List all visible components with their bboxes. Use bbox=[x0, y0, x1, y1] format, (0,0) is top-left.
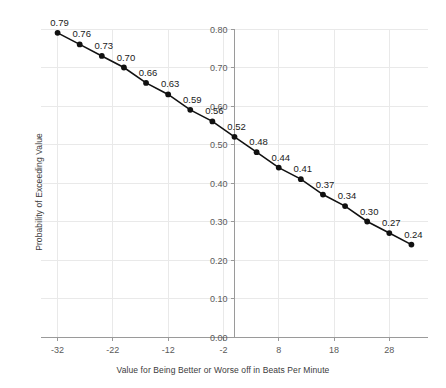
data-point-marker bbox=[77, 42, 83, 48]
data-point-label: 0.41 bbox=[294, 163, 313, 174]
x-axis-title: Value for Being Better or Worse off in B… bbox=[0, 365, 446, 375]
data-point-marker bbox=[276, 165, 282, 171]
data-point-marker bbox=[187, 107, 193, 113]
x-tick-label: -22 bbox=[106, 345, 119, 355]
y-tick-label: 0.10 bbox=[210, 294, 228, 304]
data-point-label: 0.30 bbox=[360, 206, 379, 217]
line-chart-plot: -32-22-12-2818280.000.100.200.300.400.50… bbox=[0, 0, 446, 388]
y-tick-label: 0.70 bbox=[210, 63, 228, 73]
data-point-marker bbox=[254, 149, 260, 155]
data-point-marker bbox=[232, 134, 238, 140]
data-point-marker bbox=[121, 65, 127, 71]
data-point-marker bbox=[409, 242, 415, 248]
y-tick-label: 0.50 bbox=[210, 140, 228, 150]
x-tick-label: -32 bbox=[51, 345, 64, 355]
data-point-marker bbox=[99, 53, 105, 59]
y-tick-label: 0.80 bbox=[210, 25, 228, 35]
data-point-label: 0.44 bbox=[271, 152, 290, 163]
data-point-label: 0.52 bbox=[227, 121, 246, 132]
data-point-marker bbox=[386, 230, 392, 236]
data-point-label: 0.76 bbox=[72, 28, 91, 39]
data-point-label: 0.37 bbox=[316, 179, 335, 190]
chart-container: -32-22-12-2818280.000.100.200.300.400.50… bbox=[0, 0, 446, 388]
x-tick-label: -12 bbox=[162, 345, 175, 355]
y-tick-label: 0.40 bbox=[210, 179, 228, 189]
data-point-marker bbox=[298, 176, 304, 182]
data-point-marker bbox=[320, 192, 326, 198]
x-tick-label: 8 bbox=[276, 345, 281, 355]
data-point-label: 0.34 bbox=[338, 190, 357, 201]
data-point-marker bbox=[55, 30, 61, 36]
data-point-marker bbox=[342, 203, 348, 209]
data-point-label: 0.27 bbox=[382, 217, 401, 228]
x-tick-label: 28 bbox=[384, 345, 394, 355]
y-axis-title: Probability of Exceeding Value bbox=[34, 92, 44, 292]
y-tick-label: 0.00 bbox=[210, 333, 228, 343]
data-point-label: 0.56 bbox=[205, 105, 224, 116]
y-tick-label: 0.20 bbox=[210, 256, 228, 266]
x-tick-label: 18 bbox=[329, 345, 339, 355]
data-point-label: 0.66 bbox=[139, 67, 158, 78]
data-point-label: 0.63 bbox=[161, 78, 180, 89]
x-tick-label: -2 bbox=[219, 345, 227, 355]
data-point-label: 0.70 bbox=[117, 52, 136, 63]
data-point-label: 0.59 bbox=[183, 94, 202, 105]
data-point-marker bbox=[209, 119, 215, 125]
data-point-label: 0.79 bbox=[50, 17, 69, 28]
y-tick-label: 0.30 bbox=[210, 217, 228, 227]
data-point-label: 0.24 bbox=[404, 229, 423, 240]
data-point-marker bbox=[364, 219, 370, 225]
data-point-marker bbox=[143, 80, 149, 86]
data-point-marker bbox=[165, 92, 171, 98]
data-point-label: 0.48 bbox=[249, 136, 268, 147]
data-point-label: 0.73 bbox=[95, 40, 114, 51]
